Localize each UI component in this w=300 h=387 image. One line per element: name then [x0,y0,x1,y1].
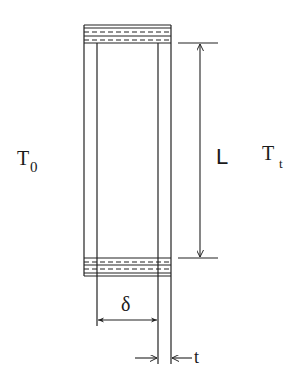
inner-walls [97,43,158,364]
length-dimension [178,43,218,258]
left-temperature-subscript: 0 [30,160,38,175]
top-band [84,25,171,43]
diagram-canvas: T 0 L T t δ t [0,0,300,387]
right-temperature-subscript: t [279,157,283,170]
diagram-svg [0,0,300,387]
spacing-label: δ [121,294,130,314]
left-temperature-label: T [17,148,29,168]
right-temperature-label: T [262,143,274,163]
thickness-label: t [194,348,199,366]
length-label: L [216,146,228,168]
